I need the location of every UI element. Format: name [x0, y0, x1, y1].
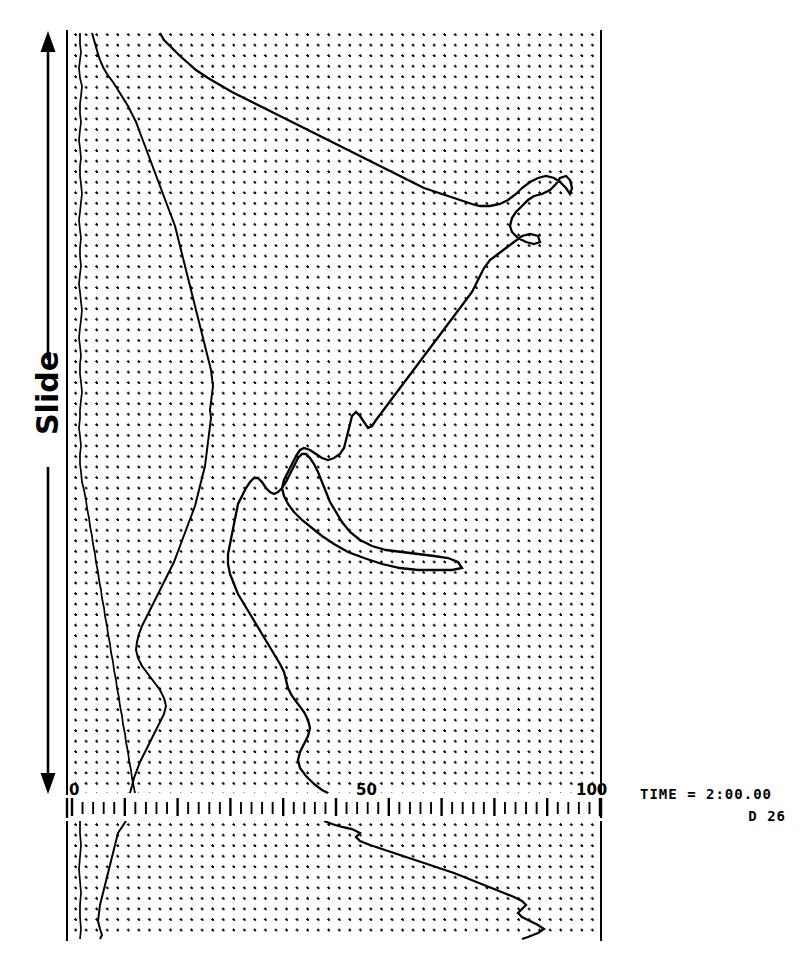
curve-lower-profile-c	[324, 821, 544, 939]
curve-lower-profile-b	[98, 821, 126, 939]
x-tick-label-0: 0	[69, 783, 79, 798]
x-axis-ticks	[60, 798, 606, 818]
x-tick-label-100: 100	[576, 783, 607, 798]
curve-profile-b	[92, 33, 213, 793]
curve-lower-profile-a	[79, 821, 81, 939]
main-plot-panel	[60, 30, 606, 795]
curve-profile-c	[160, 33, 572, 793]
figure-root: Slide 0 50 100	[0, 0, 804, 965]
lower-curves-layer	[60, 821, 606, 941]
annotation-block: TIME = 2:00.00 D 26	[640, 783, 800, 827]
frame-annotation: D 26	[640, 805, 800, 827]
main-curves-layer	[60, 30, 606, 795]
lower-plot-panel	[60, 821, 606, 941]
x-axis-tick-band	[60, 798, 606, 818]
x-tick-label-50: 50	[356, 783, 377, 798]
time-annotation: TIME = 2:00.00	[640, 783, 800, 805]
curve-profile-a	[79, 33, 135, 793]
